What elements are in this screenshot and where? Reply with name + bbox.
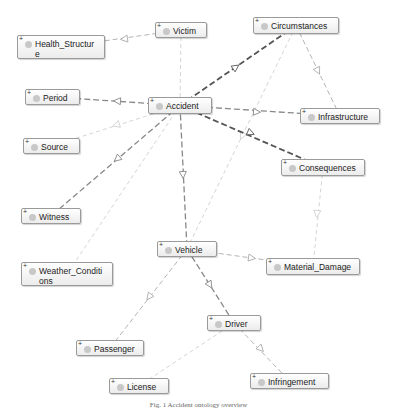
- edge-vehicle-passenger: [110, 249, 187, 348]
- class-label: Passenger: [94, 344, 139, 354]
- expand-icon[interactable]: +: [23, 262, 27, 270]
- class-label: Infrastructure: [318, 112, 375, 122]
- class-label: Health_Structure: [35, 39, 100, 59]
- class-circle-icon: [29, 214, 36, 221]
- arrowhead-icon: [246, 128, 254, 134]
- class-label: Weather_Conditions: [39, 266, 108, 286]
- arrowhead-icon: [147, 292, 154, 300]
- expand-icon[interactable]: +: [23, 208, 27, 216]
- class-circle-icon: [215, 321, 222, 328]
- class-node-accident[interactable]: +Accident: [148, 97, 212, 114]
- class-circle-icon: [84, 346, 91, 353]
- expand-icon[interactable]: +: [157, 22, 161, 30]
- arrowhead-icon: [231, 65, 239, 72]
- class-label: Period: [43, 93, 75, 103]
- edge-circumstances-vehicle: [187, 26, 296, 250]
- arrowhead-icon: [121, 35, 128, 42]
- class-circle-icon: [261, 23, 268, 30]
- edge-layer: [0, 0, 397, 410]
- class-node-driver[interactable]: +Driver: [207, 315, 261, 331]
- class-circle-icon: [33, 95, 40, 102]
- ontology-diagram: +Victim+Health_Structure+Circumstances+P…: [0, 0, 397, 410]
- arrowhead-icon: [114, 98, 121, 105]
- figure-caption: Fig. 1 Accident ontology overview: [0, 401, 397, 409]
- class-circle-icon: [289, 165, 296, 172]
- class-node-infrastructure[interactable]: +Infrastructure: [300, 108, 380, 124]
- arrowhead-icon: [113, 121, 121, 128]
- class-circle-icon: [258, 379, 265, 386]
- expand-icon[interactable]: +: [268, 258, 272, 266]
- edge-driver-license: [139, 323, 234, 386]
- class-circle-icon: [156, 103, 163, 110]
- expand-icon[interactable]: +: [25, 138, 29, 146]
- class-label: Accident: [166, 101, 207, 111]
- class-circle-icon: [29, 268, 36, 275]
- class-node-witness[interactable]: +Witness: [21, 208, 81, 224]
- class-label: Circumstances: [271, 21, 334, 31]
- class-label: License: [127, 382, 164, 392]
- class-label: Vehicle: [175, 245, 212, 255]
- class-label: Source: [41, 142, 75, 152]
- arrowhead-icon: [248, 254, 255, 261]
- class-label: Material_Damage: [284, 262, 355, 272]
- class-node-material[interactable]: +Material_Damage: [266, 258, 360, 275]
- class-label: Consequences: [299, 163, 360, 173]
- class-circle-icon: [31, 144, 38, 151]
- arrowhead-icon: [205, 280, 212, 288]
- arrowhead-icon: [314, 210, 321, 217]
- class-circle-icon: [274, 264, 281, 271]
- class-node-consequences[interactable]: +Consequences: [281, 159, 365, 176]
- class-node-victim[interactable]: +Victim: [155, 22, 207, 38]
- arrowhead-icon: [313, 66, 319, 74]
- class-node-license[interactable]: +License: [109, 378, 169, 394]
- arrowhead-icon: [179, 171, 186, 178]
- class-circle-icon: [165, 247, 172, 254]
- edge-vehicle-driver: [187, 249, 234, 323]
- class-label: Witness: [39, 212, 76, 222]
- edge-accident-vehicle: [179, 106, 187, 250]
- class-label: Driver: [225, 319, 256, 329]
- class-node-passenger[interactable]: +Passenger: [76, 340, 144, 356]
- edge-consequences-material: [313, 168, 323, 267]
- class-node-source[interactable]: +Source: [23, 138, 80, 154]
- class-label: Infringement: [268, 377, 324, 387]
- class-node-health[interactable]: +Health_Structure: [17, 35, 105, 59]
- expand-icon[interactable]: +: [78, 340, 82, 348]
- expand-icon[interactable]: +: [159, 241, 163, 249]
- class-circle-icon: [25, 41, 32, 48]
- expand-icon[interactable]: +: [150, 97, 154, 105]
- arrowhead-icon: [253, 108, 260, 115]
- edge-victim-accident: [180, 30, 181, 106]
- expand-icon[interactable]: +: [255, 17, 259, 25]
- edge-accident-witness: [51, 106, 180, 217]
- expand-icon[interactable]: +: [111, 378, 115, 386]
- class-node-vehicle[interactable]: +Vehicle: [157, 241, 217, 257]
- edge-circumstances-infrastructure: [296, 26, 340, 117]
- expand-icon[interactable]: +: [283, 159, 287, 167]
- class-circle-icon: [308, 114, 315, 121]
- expand-icon[interactable]: +: [27, 89, 31, 97]
- expand-icon[interactable]: +: [209, 315, 213, 323]
- expand-icon[interactable]: +: [252, 373, 256, 381]
- class-node-circumstances[interactable]: +Circumstances: [253, 17, 339, 34]
- class-circle-icon: [163, 28, 170, 35]
- arrowhead-icon: [114, 154, 122, 161]
- class-node-weather[interactable]: +Weather_Conditions: [21, 262, 113, 286]
- expand-icon[interactable]: +: [19, 35, 23, 43]
- class-node-period[interactable]: +Period: [25, 89, 80, 105]
- arrowhead-icon: [256, 344, 263, 351]
- class-label: Victim: [173, 26, 202, 36]
- class-circle-icon: [117, 384, 124, 391]
- expand-icon[interactable]: +: [302, 108, 306, 116]
- class-node-infringement[interactable]: +Infringement: [250, 373, 329, 389]
